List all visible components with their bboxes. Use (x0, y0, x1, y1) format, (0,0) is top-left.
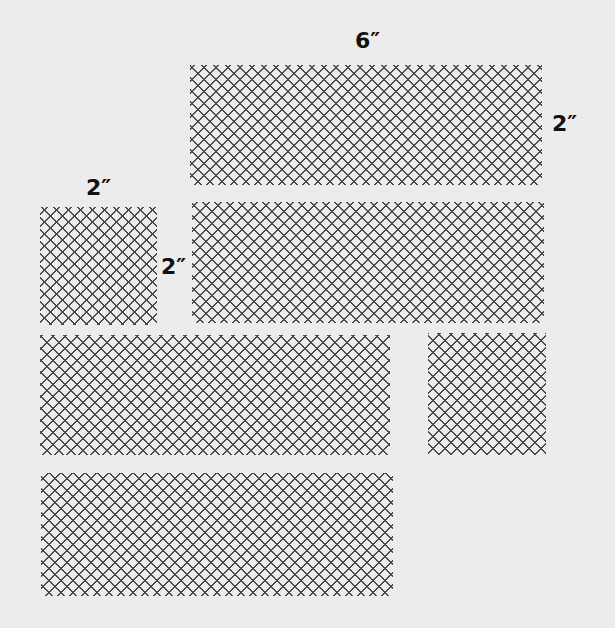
label-top-width: 6″ (355, 30, 380, 52)
label-square-height: 2″ (161, 256, 186, 278)
rect-middle-right (192, 202, 544, 323)
diagram-canvas: 6″ 2″ 2″ 2″ (0, 0, 615, 628)
rect-row3-left (40, 335, 390, 455)
rect-small-square-2x2 (40, 207, 157, 325)
rect-row3-right-small (428, 333, 546, 455)
rect-top-6x2 (190, 65, 542, 185)
rect-bottom (41, 473, 393, 596)
label-top-height: 2″ (552, 113, 577, 135)
label-square-width: 2″ (86, 177, 111, 199)
